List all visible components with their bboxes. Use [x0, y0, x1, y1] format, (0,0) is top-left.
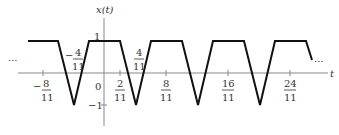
svg-text:2: 2: [117, 78, 123, 89]
svg-text:4: 4: [75, 47, 81, 58]
y-tick-label-minus-1: −1: [88, 100, 103, 111]
annotation-minus-4-11: − 4 11: [65, 47, 85, 72]
x-axis-label: t: [330, 68, 335, 79]
svg-text:11: 11: [133, 61, 146, 72]
svg-text:8: 8: [43, 78, 49, 89]
svg-text:11: 11: [222, 92, 235, 103]
svg-text:−: −: [33, 81, 41, 92]
x-tick-label-16-11: 16 11: [222, 78, 235, 103]
svg-text:11: 11: [284, 92, 297, 103]
ellipsis-left: ...: [8, 52, 18, 63]
y-tick-label-1: 1: [94, 31, 100, 42]
x-tick-label-minus-8-11: − 8 11: [33, 78, 54, 103]
svg-text:24: 24: [284, 78, 297, 89]
svg-text:8: 8: [163, 78, 169, 89]
ellipsis-right: ...: [314, 53, 324, 64]
x-tick-label-8-11: 8 11: [160, 78, 173, 103]
svg-text:11: 11: [114, 92, 127, 103]
svg-text:11: 11: [160, 92, 173, 103]
svg-text:−: −: [65, 50, 73, 61]
svg-text:11: 11: [41, 92, 54, 103]
annotation-4-11: 4 11: [133, 47, 146, 72]
svg-text:16: 16: [222, 78, 235, 89]
svg-text:11: 11: [72, 61, 85, 72]
svg-text:4: 4: [136, 47, 142, 58]
x-tick-label-2-11: 2 11: [114, 78, 127, 103]
origin-label: 0: [95, 81, 101, 92]
x-tick-label-24-11: 24 11: [284, 78, 297, 103]
signal-diagram: x(t) t ... ... 1 −1 0 − 8 11 2 11 8 11 1…: [0, 0, 339, 135]
y-axis-label: x(t): [96, 4, 114, 15]
